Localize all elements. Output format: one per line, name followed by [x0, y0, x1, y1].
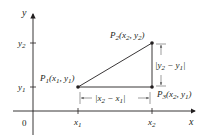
- x-axis-label: x: [188, 116, 194, 127]
- p2-label: P2(x2, y2): [109, 30, 145, 42]
- point-p2: [150, 41, 154, 45]
- origin-label: 0: [22, 118, 27, 128]
- horizontal-distance-label: |x2 − x1|: [95, 93, 126, 105]
- distance-diagram: x y 0 y2 y1 x1 x2 P1(x1, y1) P2(x2, y2) …: [0, 0, 209, 138]
- y1-tick-label: y1: [17, 82, 26, 94]
- hypotenuse: [78, 43, 152, 87]
- point-p3: [150, 85, 154, 89]
- x2-tick-label: x2: [147, 117, 156, 129]
- y-axis: y: [21, 7, 33, 135]
- y-axis-label: y: [21, 7, 27, 18]
- y2-tick-label: y2: [17, 38, 26, 50]
- x-axis: x: [13, 111, 195, 127]
- p3-label: P3(x2, y1): [156, 89, 192, 101]
- right-triangle: [78, 43, 152, 87]
- vertical-distance-label: |y2 − y1|: [155, 60, 186, 72]
- x1-tick-label: x1: [73, 117, 82, 129]
- point-p1: [76, 85, 80, 89]
- horizontal-distance-measure: |x2 − x1|: [80, 92, 150, 105]
- p1-label: P1(x1, y1): [39, 73, 75, 85]
- vertical-distance-measure: |y2 − y1|: [155, 44, 186, 86]
